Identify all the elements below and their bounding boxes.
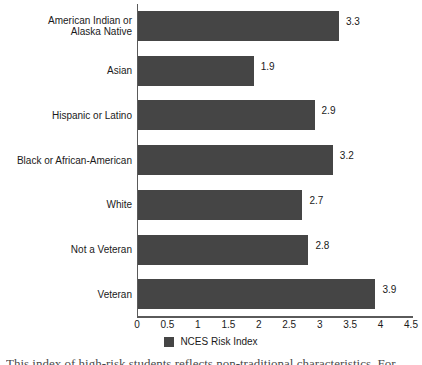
bar-row: 1.9: [138, 49, 412, 94]
bar: [138, 145, 333, 175]
x-tick-label: 1: [195, 319, 201, 331]
bar: [138, 11, 339, 41]
bar: [138, 100, 315, 130]
category-label-line: Veteran: [2, 289, 132, 301]
x-tick-label: 2.5: [282, 319, 296, 331]
category-label-line: Hispanic or Latino: [2, 110, 132, 122]
x-tick-label: 2: [256, 319, 262, 331]
bar-row: 3.3: [138, 4, 412, 49]
bar-row: 3.9: [138, 272, 412, 317]
category-label: Black or African-American: [2, 155, 132, 167]
bar-value-label: 2.8: [315, 240, 329, 251]
bar: [138, 56, 254, 86]
category-label: Asian: [2, 65, 132, 77]
x-tick-label: 1.5: [221, 319, 235, 331]
category-label-line: Black or African-American: [2, 155, 132, 167]
legend-color-swatch: [164, 337, 174, 347]
category-label-line: Asian: [2, 65, 132, 77]
x-tick-label: 4.5: [404, 319, 418, 331]
category-label: White: [2, 199, 132, 211]
x-tick-label: 0.5: [160, 319, 174, 331]
x-axis-tick-labels: 00.511.522.533.544.5: [137, 319, 413, 333]
bar-row: 2.7: [138, 183, 412, 228]
x-axis-line: [137, 316, 413, 318]
bar: [138, 235, 308, 265]
bar-value-label: 2.9: [322, 105, 336, 116]
x-tick-label: 3.5: [343, 319, 357, 331]
bar-row: 2.8: [138, 228, 412, 273]
bar-value-label: 3.2: [340, 150, 354, 161]
category-label-line: American Indian or: [2, 15, 132, 27]
category-label: Hispanic or Latino: [2, 110, 132, 122]
page-body-text-fragment: This index of high-risk students reflect…: [6, 356, 418, 365]
bar-row: 2.9: [138, 93, 412, 138]
x-tick-label: 0: [134, 319, 140, 331]
plot-area: 3.31.92.93.22.72.83.9: [137, 4, 412, 317]
y-axis-category-labels: American Indian orAlaska NativeAsianHisp…: [0, 4, 132, 317]
chart-legend: NCES Risk Index: [0, 336, 422, 348]
bar-row: 3.2: [138, 138, 412, 183]
category-label: Veteran: [2, 289, 132, 301]
bar-value-label: 3.9: [382, 284, 396, 295]
bar: [138, 190, 302, 220]
category-label-line: Not a Veteran: [2, 244, 132, 256]
category-label-line: White: [2, 199, 132, 211]
bar-value-label: 3.3: [346, 16, 360, 27]
category-label: American Indian orAlaska Native: [2, 15, 132, 38]
x-tick-label: 3: [317, 319, 323, 331]
legend-label: NCES Risk Index: [180, 336, 257, 348]
bar-chart-figure: American Indian orAlaska NativeAsianHisp…: [0, 0, 422, 365]
bar-value-label: 1.9: [261, 61, 275, 72]
x-tick-label: 4: [378, 319, 384, 331]
bar-value-label: 2.7: [309, 195, 323, 206]
bar: [138, 279, 375, 309]
category-label: Not a Veteran: [2, 244, 132, 256]
category-label-line: Alaska Native: [2, 26, 132, 38]
